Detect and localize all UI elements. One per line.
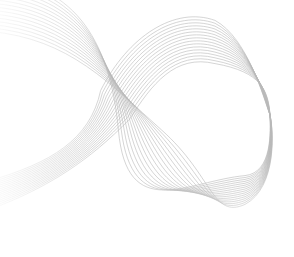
artwork-canvas [0, 0, 294, 257]
bottom-fade-overlay [0, 0, 294, 257]
infinity-ribbon-graphic [0, 0, 294, 257]
